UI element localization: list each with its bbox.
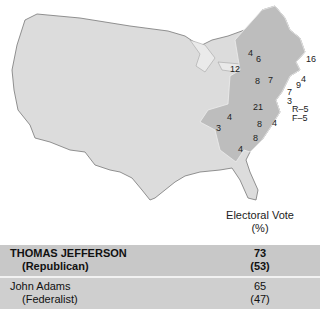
- us-map: 4 6 16 12 4 9 7 3 8 7 R–5 F–5 21 4 3 8 4…: [0, 0, 326, 205]
- pennsylvania-east-label: 7: [268, 75, 273, 85]
- maryland-f-label: F–5: [292, 113, 308, 123]
- massachusetts-label: 16: [306, 54, 316, 64]
- table-row-adams: John Adams (Federalist) 65 (47): [0, 278, 320, 309]
- electoral-vote-header: Electoral Vote (%): [205, 209, 315, 235]
- candidate-name: John Adams: [10, 280, 71, 292]
- header-line1: Electoral Vote: [205, 209, 315, 222]
- virginia-label: 21: [253, 102, 263, 112]
- new-hampshire-label: 6: [256, 54, 261, 64]
- vermont-label: 4: [248, 48, 253, 58]
- rhode-island-label: 4: [301, 74, 306, 84]
- south-carolina-label: 8: [253, 133, 258, 143]
- vote-percent: (47): [205, 293, 315, 306]
- vote-cell: 73 (53): [205, 247, 315, 273]
- pennsylvania-west-label: 8: [255, 76, 260, 86]
- candidate-cell: THOMAS JEFFERSON (Republican): [10, 247, 127, 273]
- results-table: THOMAS JEFFERSON (Republican) 73 (53) Jo…: [0, 245, 320, 309]
- connecticut-label: 9: [296, 80, 301, 90]
- vote-count: 65: [205, 280, 315, 293]
- candidate-party: (Federalist): [10, 293, 78, 306]
- kentucky-label: 4: [227, 112, 232, 122]
- vote-percent: (53): [205, 260, 315, 273]
- table-row-jefferson: THOMAS JEFFERSON (Republican) 73 (53): [0, 245, 320, 278]
- candidate-cell: John Adams (Federalist): [10, 280, 78, 306]
- header-line2: (%): [205, 222, 315, 235]
- georgia-label: 4: [238, 144, 243, 154]
- north-carolina-f-label: 4: [272, 118, 277, 128]
- vote-count: 73: [205, 247, 315, 260]
- tennessee-label: 3: [216, 123, 221, 133]
- north-carolina-r-label: 8: [257, 119, 262, 129]
- candidate-name: THOMAS JEFFERSON: [10, 247, 127, 259]
- vote-cell: 65 (47): [205, 280, 315, 306]
- candidate-party: (Republican): [10, 260, 127, 273]
- new-york-label: 12: [230, 64, 240, 74]
